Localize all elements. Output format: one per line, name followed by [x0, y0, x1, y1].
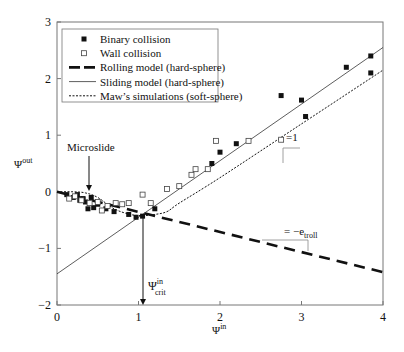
y-tick-label: −2 — [38, 298, 51, 312]
microslide-annotation: Microslide — [67, 141, 115, 191]
open-square-icon — [82, 51, 87, 56]
binary-collision-point — [299, 98, 304, 103]
wall-collision-point — [87, 201, 92, 206]
wall-collision-point — [140, 192, 145, 197]
x-tick-label: 1 — [136, 310, 142, 324]
y-axis-label: Ψout — [14, 156, 33, 170]
x-tick-label: 4 — [380, 310, 386, 324]
critical-psi-label: Ψincrit — [148, 277, 166, 297]
binary-collision-point — [344, 65, 349, 70]
binary-collision-point — [85, 206, 90, 211]
legend-label: Binary collision — [100, 33, 171, 45]
wall-collision-point — [148, 201, 153, 206]
binary-collision-point — [126, 212, 131, 217]
y-tick-label: 1 — [45, 128, 51, 142]
wall-collision-point — [205, 167, 210, 172]
legend-label: Rolling model (hard-sphere) — [100, 61, 226, 74]
slope-roll-label: = −etroll — [284, 225, 318, 240]
binary-collision-point — [218, 150, 223, 155]
binary-collision-point — [134, 215, 139, 220]
binary-collision-point — [152, 206, 157, 211]
x-tick-label: 0 — [54, 310, 60, 324]
x-tick-label: 3 — [299, 310, 305, 324]
microslide-label: Microslide — [67, 141, 115, 153]
critical-psi-annotation: Ψincrit — [140, 215, 166, 305]
binary-collision-point — [368, 70, 373, 75]
y-tick-label: 3 — [45, 15, 51, 29]
wall-collision-point — [126, 201, 131, 206]
x-axis-ticks: 01234 — [54, 301, 386, 324]
wall-collision-point — [95, 199, 100, 204]
binary-collision-point — [112, 209, 117, 214]
chart: −2−10123 01234 =1 = −etroll Microslide Ψ… — [0, 0, 404, 352]
wall-collision-point — [177, 184, 182, 189]
arrow-down-icon — [86, 185, 92, 191]
wall-collision-point — [67, 196, 72, 201]
wall-collision-point — [72, 194, 77, 199]
wall-collision-point — [246, 138, 251, 143]
binary-collision-point — [303, 114, 308, 119]
wall-collision-point — [165, 186, 170, 191]
arrow-down-icon — [140, 299, 146, 305]
wall-collision-point — [120, 202, 125, 207]
wall-collision-point — [105, 203, 110, 208]
legend-label: Wall collision — [100, 47, 162, 59]
wall-collision-point — [213, 138, 218, 143]
wall-collision-point — [193, 167, 198, 172]
wall-collision-point — [279, 137, 284, 142]
wall-collision-point — [113, 201, 118, 206]
y-axis-ticks: −2−10123 — [38, 15, 61, 312]
y-tick-label: 0 — [45, 185, 51, 199]
y-tick-label: 2 — [45, 72, 51, 86]
slope-one-label: =1 — [286, 131, 298, 143]
binary-collision-point — [89, 195, 94, 200]
x-axis-label: Ψin — [212, 322, 226, 336]
binary-collision-point — [279, 93, 284, 98]
binary-collision-point — [209, 161, 214, 166]
y-tick-label: −1 — [38, 241, 51, 255]
slope-triangle-rolling: = −etroll — [262, 225, 318, 251]
filled-square-icon — [82, 37, 87, 42]
wall-collision-point — [189, 172, 194, 177]
legend-label: Maw’s simulations (soft-sphere) — [100, 90, 243, 103]
wall-collision-point — [99, 208, 104, 213]
wall-collision-point — [79, 198, 84, 203]
legend: Binary collisionWall collisionRolling mo… — [62, 29, 243, 103]
slope-triangle-sliding: =1 — [283, 131, 300, 163]
binary-collision-point — [368, 53, 373, 58]
legend-label: Sliding model (hard-sphere) — [100, 76, 224, 89]
binary-collision-point — [234, 141, 239, 146]
